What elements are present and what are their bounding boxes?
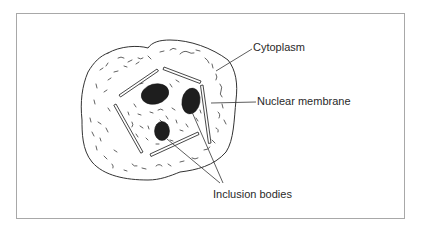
nuclear-membrane-leader bbox=[211, 102, 256, 103]
cell-outline bbox=[81, 40, 236, 180]
inclusion-body-2 bbox=[180, 87, 202, 116]
cell-diagram: Cytoplasm Nuclear membrane Inclusion bod… bbox=[0, 0, 421, 232]
cytoplasm-label: Cytoplasm bbox=[253, 41, 305, 53]
inclusion-bodies-label: Inclusion bodies bbox=[213, 188, 292, 200]
cytoplasm-leader bbox=[216, 49, 252, 71]
nuclear-membrane-label: Nuclear membrane bbox=[257, 95, 351, 107]
inclusion-body-3 bbox=[155, 122, 170, 141]
inclusion-leader-1 bbox=[167, 139, 220, 183]
nuclear-membrane bbox=[114, 67, 211, 157]
figure-frame bbox=[17, 14, 405, 219]
inclusion-bodies bbox=[139, 81, 202, 141]
inclusion-body-1 bbox=[139, 81, 171, 108]
